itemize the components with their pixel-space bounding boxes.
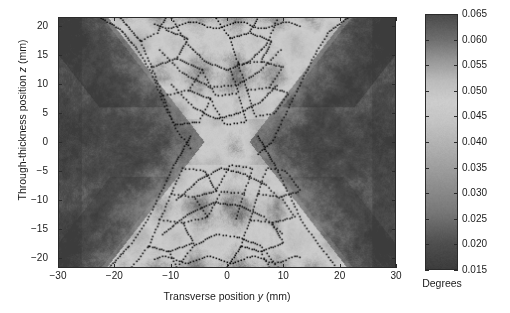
y-tick-mark [58, 113, 62, 114]
x-tick-mark [396, 17, 397, 21]
y-tick-mark [58, 258, 62, 259]
y-tick-label: −20 [0, 252, 48, 263]
y-tick-mark [392, 55, 396, 56]
y-tick-mark [392, 84, 396, 85]
colorbar-tick-mark [425, 65, 429, 66]
y-tick-mark [392, 258, 396, 259]
y-tick-mark [392, 113, 396, 114]
colorbar-tick-mark [454, 116, 458, 117]
colorbar-tick-mark [425, 116, 429, 117]
y-axis-label-suffix: (mm) [16, 39, 28, 66]
y-tick-mark [58, 142, 62, 143]
x-tick-mark [114, 17, 115, 21]
x-axis-label-suffix: (mm) [263, 290, 290, 302]
colorbar-tick-label: 0.045 [462, 110, 487, 121]
colorbar-tick-mark [425, 270, 429, 271]
y-axis-label: Through-thickness position z (mm) [16, 10, 28, 230]
x-tick-label: −30 [38, 270, 78, 281]
colorbar-tick-mark [425, 40, 429, 41]
colorbar-tick-mark [425, 219, 429, 220]
y-tick-mark [58, 26, 62, 27]
x-tick-mark [396, 264, 397, 268]
y-tick-mark [392, 26, 396, 27]
colorbar-tick-mark [454, 244, 458, 245]
x-tick-label: −10 [151, 270, 191, 281]
colorbar-tick-mark [454, 193, 458, 194]
x-tick-mark [227, 17, 228, 21]
colorbar-gradient [426, 15, 457, 269]
colorbar-tick-mark [425, 14, 429, 15]
colorbar-tick-mark [454, 40, 458, 41]
colorbar-tick-label: 0.040 [462, 136, 487, 147]
bead-contour-overlay [59, 18, 395, 267]
y-tick-mark [392, 171, 396, 172]
x-axis-label: Transverse position y (mm) [58, 290, 396, 302]
colorbar-tick-mark [454, 219, 458, 220]
x-tick-label: 10 [263, 270, 303, 281]
y-axis-label-prefix: Through-thickness position [16, 72, 28, 200]
x-tick-label: −20 [94, 270, 134, 281]
colorbar-tick-mark [454, 65, 458, 66]
colorbar-tick-label: 0.015 [462, 264, 487, 275]
colorbar-tick-mark [425, 142, 429, 143]
colorbar-tick-mark [425, 168, 429, 169]
x-tick-mark [227, 264, 228, 268]
colorbar-tick-mark [454, 270, 458, 271]
figure-panel: −30−20−100102030 20151050−5−10−15−20 Tra… [0, 0, 510, 313]
x-tick-mark [171, 264, 172, 268]
colorbar-tick-mark [454, 142, 458, 143]
y-tick-mark [58, 229, 62, 230]
colorbar-tick-mark [425, 193, 429, 194]
colorbar-tick-mark [425, 91, 429, 92]
x-tick-mark [340, 17, 341, 21]
x-tick-mark [58, 264, 59, 268]
colorbar-tick-label: 0.055 [462, 59, 487, 70]
y-axis-label-variable: z [16, 67, 28, 72]
x-tick-mark [58, 17, 59, 21]
colorbar-tick-label: 0.060 [462, 34, 487, 45]
heatmap-plot-area [58, 17, 396, 268]
colorbar-tick-label: 0.025 [462, 213, 487, 224]
x-tick-label: 0 [207, 270, 247, 281]
y-tick-mark [58, 84, 62, 85]
x-tick-mark [340, 264, 341, 268]
x-tick-mark [171, 17, 172, 21]
colorbar-tick-mark [454, 14, 458, 15]
colorbar-tick-label: 0.020 [462, 238, 487, 249]
x-tick-label: 20 [320, 270, 360, 281]
colorbar-title: Degrees [407, 277, 477, 289]
x-tick-mark [283, 264, 284, 268]
y-tick-mark [58, 55, 62, 56]
colorbar-tick-label: 0.035 [462, 162, 487, 173]
y-tick-mark [392, 142, 396, 143]
x-tick-mark [114, 264, 115, 268]
y-tick-mark [58, 200, 62, 201]
colorbar-tick-label: 0.030 [462, 187, 487, 198]
y-tick-mark [58, 171, 62, 172]
colorbar-tick-label: 0.065 [462, 8, 487, 19]
x-tick-mark [283, 17, 284, 21]
colorbar-tick-mark [454, 91, 458, 92]
y-tick-mark [392, 200, 396, 201]
colorbar-tick-mark [425, 244, 429, 245]
y-tick-mark [392, 229, 396, 230]
x-axis-label-prefix: Transverse position [164, 290, 258, 302]
colorbar-tick-label: 0.050 [462, 85, 487, 96]
colorbar-tick-mark [454, 168, 458, 169]
